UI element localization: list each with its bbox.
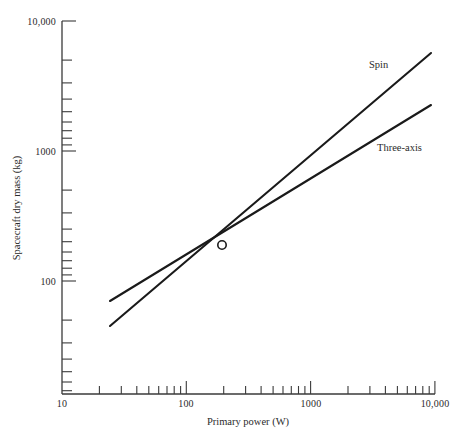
y-tick-label-10000: 10,000 bbox=[4, 16, 56, 27]
y-axis-title: Spacecraft dry mass (kg) bbox=[11, 156, 22, 261]
series-lines bbox=[110, 53, 431, 326]
x-axis-ticks bbox=[99, 381, 435, 394]
x-axis-title: Primary power (W) bbox=[207, 416, 289, 427]
x-tick-label-1000: 1000 bbox=[301, 398, 322, 409]
x-tick-label-10000: 10,000 bbox=[421, 398, 450, 409]
series-label-three-axis: Three-axis bbox=[377, 142, 422, 153]
y-tick-label-100: 100 bbox=[4, 276, 56, 287]
series-line-spin bbox=[110, 53, 431, 326]
series-label-spin: Spin bbox=[369, 59, 388, 70]
y-axis-ticks bbox=[62, 21, 76, 391]
x-tick-label-100: 100 bbox=[178, 398, 194, 409]
x-tick-label-10: 10 bbox=[57, 398, 67, 409]
crossover-point-marker bbox=[218, 241, 226, 249]
chart-figure: 10,000 1000 100 10 100 1000 10,000 Prima… bbox=[0, 0, 457, 440]
plot-area bbox=[0, 0, 457, 440]
series-line-three-axis bbox=[110, 105, 431, 301]
